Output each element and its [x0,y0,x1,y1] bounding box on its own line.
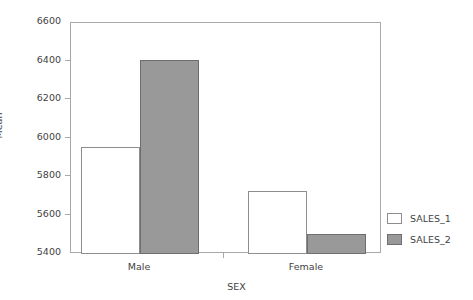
bar-male-sales_1 [81,147,140,254]
bar-chart: Mean 5400560058006000620064006600 MaleFe… [0,0,473,300]
y-tick-label: 6400 [37,54,61,66]
x-tick-label: Female [289,261,323,272]
y-tick-label: 5600 [37,208,61,220]
legend-swatch-icon [387,213,402,224]
chart-legend: SALES_1SALES_2 [387,208,473,250]
legend-item-sales_1[interactable]: SALES_1 [387,208,473,229]
y-tick-label: 6600 [37,15,61,27]
legend-label: SALES_1 [410,213,451,224]
x-axis-title: SEX [0,281,473,292]
legend-swatch-icon [387,234,402,245]
x-axis-tick-mark [223,253,224,258]
legend-item-sales_2[interactable]: SALES_2 [387,229,473,250]
y-tick-label: 5800 [37,169,61,181]
legend-label: SALES_2 [410,234,451,245]
y-axis-title: Mean [0,113,4,139]
y-tick-label: 6200 [37,92,61,104]
plot-area [70,22,381,253]
x-tick-label: Male [128,261,151,272]
y-tick-label: 6000 [37,131,61,143]
y-tick-label: 5400 [37,246,61,258]
bar-female-sales_2 [307,234,366,254]
bar-female-sales_1 [248,191,307,254]
bar-male-sales_2 [140,60,199,254]
